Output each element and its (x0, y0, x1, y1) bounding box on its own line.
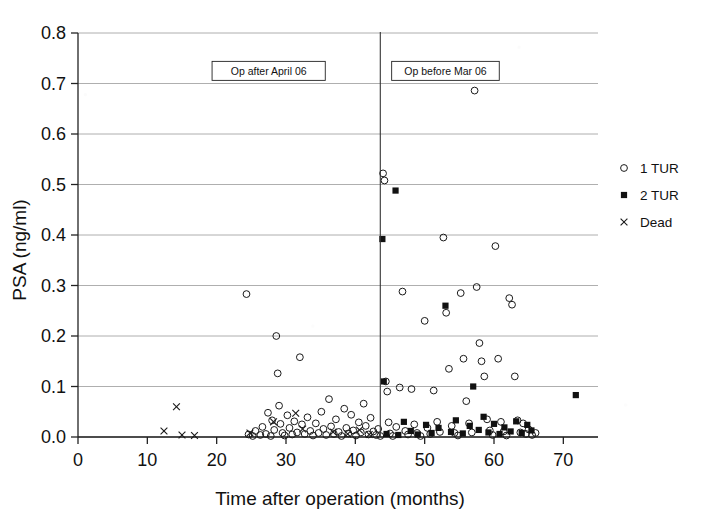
data-point (481, 373, 488, 380)
data-point (429, 430, 435, 436)
x-tick-label: 10 (137, 450, 157, 470)
data-point (367, 414, 374, 421)
x-tick-label: 20 (207, 450, 227, 470)
data-point (430, 387, 437, 394)
data-point (509, 301, 516, 308)
x-tick-label: 30 (276, 450, 296, 470)
legend-label: 1 TUR (640, 161, 679, 176)
data-point (423, 422, 429, 428)
data-point (506, 295, 513, 302)
data-point (357, 429, 364, 436)
data-point (528, 427, 534, 433)
data-point (399, 288, 406, 295)
data-point (292, 410, 299, 417)
data-point (277, 420, 284, 427)
data-point (291, 418, 298, 425)
data-point (446, 365, 453, 372)
data-point (468, 429, 475, 436)
y-tick-label: 0.1 (41, 377, 66, 397)
data-point (457, 290, 464, 297)
legend-marker-filled-square (621, 192, 627, 198)
data-point (286, 425, 293, 432)
data-point (392, 187, 398, 193)
legend-label: 2 TUR (640, 188, 679, 203)
x-tick-label: 40 (345, 450, 365, 470)
data-point (476, 427, 482, 433)
data-point (453, 417, 459, 423)
data-point (467, 423, 473, 429)
data-point (511, 373, 518, 380)
data-point (381, 378, 387, 384)
data-point (473, 284, 480, 291)
data-point (460, 355, 467, 362)
data-point (408, 428, 414, 434)
x-tick-label: 50 (415, 450, 435, 470)
data-point (385, 419, 392, 426)
y-tick-label: 0.8 (41, 23, 66, 43)
x-axis-label: Time after operation (months) (215, 488, 465, 509)
chart-container: 010203040506070 0.00.10.20.30.40.50.60.7… (0, 0, 711, 526)
data-point (448, 422, 455, 429)
data-point (448, 429, 454, 435)
data-point (442, 303, 448, 309)
annotation-text: Op after April 06 (231, 65, 307, 77)
y-tick-label: 0.5 (41, 175, 66, 195)
data-point (296, 354, 303, 361)
chart-legend: 1 TUR2 TURDead (621, 161, 679, 230)
x-tick-label: 0 (73, 450, 83, 470)
data-point (312, 420, 319, 427)
data-point (513, 418, 519, 424)
data-point (498, 418, 505, 425)
data-point (381, 177, 388, 184)
data-point (524, 422, 530, 428)
data-point (265, 409, 272, 416)
gridlines (78, 33, 598, 437)
data-point (341, 405, 348, 412)
legend-item-1-tur: 1 TUR (621, 161, 679, 176)
data-point (508, 428, 514, 434)
data-point (415, 431, 421, 437)
y-tick-label: 0.0 (41, 427, 66, 447)
data-point (476, 340, 483, 347)
data-point (384, 388, 391, 395)
data-point (395, 432, 401, 438)
data-point (276, 402, 283, 409)
data-point (496, 431, 502, 437)
data-point (401, 419, 407, 425)
data-point (435, 425, 441, 431)
data-point (463, 398, 470, 405)
annotation-text: Op before Mar 06 (404, 65, 486, 77)
legend-marker-x-cross (621, 219, 628, 226)
data-point (259, 424, 266, 431)
y-axis-ticks: 0.00.10.20.30.40.50.60.70.8 (41, 23, 78, 447)
data-point (501, 424, 507, 430)
data-point (355, 419, 362, 426)
data-point (360, 400, 367, 407)
data-point (443, 309, 450, 316)
data-point (470, 383, 476, 389)
x-axis-ticks: 010203040506070 (73, 437, 573, 470)
data-point (326, 396, 333, 403)
x-tick-label: 70 (553, 450, 573, 470)
data-point (362, 422, 369, 429)
data-point (274, 370, 281, 377)
y-tick-label: 0.4 (41, 225, 66, 245)
data-point (519, 430, 525, 436)
data-point (243, 291, 250, 298)
data-point (161, 428, 168, 435)
data-point (411, 421, 418, 428)
y-axis-label: PSA (ng/ml) (9, 199, 30, 300)
legend-item-2-tur: 2 TUR (621, 188, 679, 203)
data-point (393, 424, 400, 431)
data-point (383, 431, 389, 437)
data-point (284, 412, 291, 419)
x-tick-label: 60 (484, 450, 504, 470)
data-point (348, 411, 355, 418)
data-point (328, 423, 335, 430)
data-point (434, 418, 441, 425)
annotation-labels: Op after April 06Op before Mar 06 (212, 61, 499, 80)
legend-marker-open-circle (621, 165, 628, 172)
data-point (318, 408, 325, 415)
series-2-tur (379, 187, 579, 438)
y-tick-label: 0.6 (41, 124, 66, 144)
